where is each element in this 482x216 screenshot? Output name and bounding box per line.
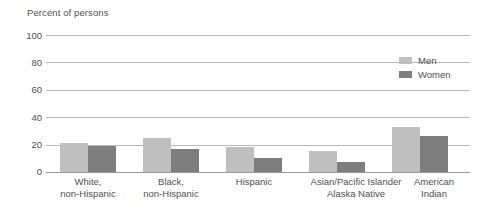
category-label-line1: White, bbox=[75, 176, 102, 187]
bar-women-hispanic bbox=[254, 158, 282, 172]
category-label-line2: Indian bbox=[378, 188, 482, 200]
bar-men-black-non-hispanic bbox=[143, 138, 171, 172]
category-label-line2: non-Hispanic bbox=[115, 188, 227, 200]
gridline-0 bbox=[46, 172, 470, 173]
bar-women-american-indian bbox=[420, 136, 448, 172]
legend-item-men: Men bbox=[399, 53, 479, 67]
bar-women-white-non-hispanic bbox=[88, 146, 116, 172]
category-label-line1: Hispanic bbox=[236, 176, 272, 187]
bar-men-asian-pacific-islander bbox=[309, 151, 337, 172]
category-label-line1: American bbox=[414, 176, 454, 187]
category-label-line1: Black, bbox=[158, 176, 184, 187]
legend-label-men: Men bbox=[418, 55, 436, 66]
bar-men-american-indian bbox=[392, 127, 420, 172]
category-label-american-indian: American Indian bbox=[378, 176, 482, 200]
y-tick-100: 100 bbox=[26, 31, 42, 41]
legend-item-women: Women bbox=[399, 67, 479, 81]
y-tick-80: 80 bbox=[31, 58, 42, 68]
x-axis-category-labels: White, non-Hispanic Black, non-Hispanic … bbox=[46, 176, 470, 216]
y-tick-60: 60 bbox=[31, 85, 42, 95]
bar-chart: Percent of persons 100 80 60 40 20 0 bbox=[0, 0, 482, 216]
bar-women-black-non-hispanic bbox=[171, 149, 199, 172]
legend-swatch-women-icon bbox=[399, 71, 412, 78]
bar-men-hispanic bbox=[226, 147, 254, 172]
bar-women-asian-pacific-islander bbox=[337, 162, 365, 172]
legend: Men Women bbox=[399, 53, 479, 81]
bar-men-white-non-hispanic bbox=[60, 143, 88, 172]
legend-swatch-men-icon bbox=[399, 57, 412, 64]
y-tick-40: 40 bbox=[31, 113, 42, 123]
y-tick-20: 20 bbox=[31, 140, 42, 150]
legend-label-women: Women bbox=[418, 69, 451, 80]
